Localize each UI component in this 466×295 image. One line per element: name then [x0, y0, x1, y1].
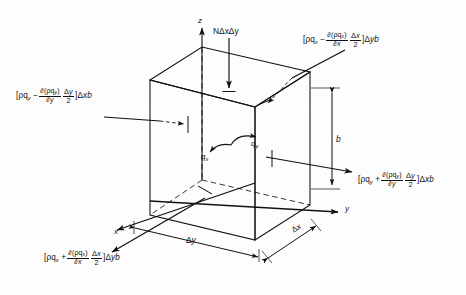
box-hidden-edges [150, 47, 310, 215]
half-delta-fraction: Δy2 [63, 88, 74, 105]
recharge-arrow [223, 38, 236, 92]
flux-label-y-out: [ρqy +∂(ρqy)∂yΔy2]Δxb [358, 172, 434, 189]
box-front-right-face [255, 72, 310, 240]
box-top-face [150, 47, 310, 107]
flux-arrow-y-out [266, 157, 352, 172]
flow-vector-qx [210, 144, 231, 152]
axis-label-x: x [114, 227, 118, 236]
dimension-delta-y [134, 221, 259, 262]
flux-arrow-x-in [292, 50, 345, 78]
flow-vector-label-qy: qy [251, 139, 258, 149]
partial-derivative-fraction: ∂(ρqx)∂x [67, 250, 88, 266]
flux-tick-x-out [198, 186, 212, 194]
axis-label-z: z [198, 16, 202, 25]
half-delta-fraction: Δy2 [405, 172, 416, 189]
flow-vector-label-qx: qx [201, 152, 208, 162]
half-delta-fraction: Δx2 [350, 32, 361, 49]
partial-derivative-fraction: ∂(ρqy)∂y [381, 172, 402, 188]
dimension-label-delta-y: Δy [186, 235, 196, 245]
flux-tick-x-in [258, 99, 272, 105]
partial-derivative-fraction: ∂(ρqx)∂x [326, 32, 347, 48]
flux-label-x-in: [ρqx −∂(ρqx)∂xΔx2]Δyb [303, 32, 379, 49]
partial-derivative-fraction: ∂(ρqy)∂y [39, 88, 60, 104]
dimension-label-b: b [336, 134, 341, 144]
flux-arrow-y-in-inner [160, 121, 184, 124]
flux-arrow-y-in [104, 117, 160, 121]
flux-label-x-out: [ρqx +∂(ρqx)∂xΔx2]Δyb [44, 250, 120, 267]
figure-canvas: z x y NΔxΔy qx qy b Δy Δx [ρqx −∂(ρqx)∂x… [0, 0, 466, 295]
half-delta-fraction: Δx2 [91, 250, 102, 267]
flux-label-y-in: [ρqy −∂(ρqy)∂yΔy2]Δxb [16, 88, 92, 105]
axis-label-y: y [345, 204, 349, 213]
source-term-label: NΔxΔy [213, 26, 239, 36]
